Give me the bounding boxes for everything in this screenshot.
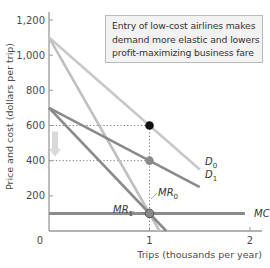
curve-label-mr1: MR1 <box>113 204 133 218</box>
y-tick-label-1200: 1,200 <box>16 15 45 26</box>
x-tick-label-0: 0 <box>37 235 43 246</box>
point-fare-after <box>145 156 154 165</box>
y-tick-label-1000: 1,000 <box>16 50 45 61</box>
x-tick-label-2: 2 <box>247 235 253 246</box>
y-axis-title: Price and cost (dollars per trip) <box>4 43 15 190</box>
mr0-leader <box>151 193 157 199</box>
curve-label-mr0: MR0 <box>158 187 178 201</box>
curve-mr0 <box>49 38 160 231</box>
fare-drop-arrow-shaft <box>52 132 58 150</box>
curve-label-d1: D1 <box>205 169 217 183</box>
point-mr-equals-mc <box>145 209 154 218</box>
curve-label-mc: MC <box>254 208 270 219</box>
annotation-box: Entry of low-cost airlines makes demand … <box>105 15 263 63</box>
y-tick-label-800: 800 <box>26 85 45 96</box>
x-tick-label-1: 1 <box>146 235 152 246</box>
y-tick-label-400: 400 <box>26 155 45 166</box>
y-tick-label-600: 600 <box>26 120 45 131</box>
fare-drop-arrow-head <box>49 149 61 157</box>
x-axis-title: Trips (thousands per year) <box>136 249 262 260</box>
curve-d1 <box>49 108 200 187</box>
y-tick-label-200: 200 <box>26 190 45 201</box>
point-fare-before <box>145 121 154 130</box>
annotation-line-1: Entry of low-cost airlines makes <box>112 19 262 33</box>
annotation-line-3: profit-maximizing business fare <box>112 46 262 60</box>
curve-label-d0: D0 <box>205 156 217 170</box>
annotation-line-2: demand more elastic and lowers <box>112 33 262 47</box>
